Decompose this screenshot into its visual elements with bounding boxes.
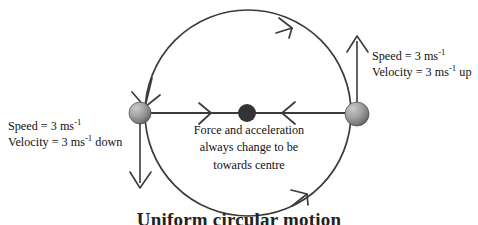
- left-velocity-label-line2: Velocity = 3 ms-1 down: [8, 134, 122, 150]
- left-velocity-label-line1: Speed = 3 ms-1: [8, 118, 122, 134]
- exponent: -1: [74, 117, 81, 127]
- right-velocity-label-line2: Velocity = 3 ms-1 up: [372, 64, 472, 80]
- diagram-canvas: [0, 0, 478, 225]
- exponent: -1: [438, 47, 445, 57]
- centre-dot: [238, 104, 256, 122]
- centre-force-label-line2: always change to be: [178, 139, 320, 156]
- right-velocity-label: Speed = 3 ms-1 Velocity = 3 ms-1 up: [372, 48, 472, 80]
- diagram-caption: Uniform circular motion: [0, 209, 478, 225]
- right-velocity-label-line1: Speed = 3 ms-1: [372, 48, 472, 64]
- left-velocity-label: Speed = 3 ms-1 Velocity = 3 ms-1 down: [8, 118, 122, 150]
- circular-motion-diagram: Speed = 3 ms-1 Velocity = 3 ms-1 up Spee…: [0, 0, 478, 225]
- right-ball: [345, 102, 369, 126]
- centre-force-label-line1: Force and acceleration: [178, 122, 320, 139]
- orbit-direction-arrow-top: [276, 18, 292, 38]
- centre-force-label-line3: towards centre: [178, 157, 320, 174]
- centre-force-label: Force and acceleration always change to …: [178, 122, 320, 174]
- left-ball: [129, 102, 151, 124]
